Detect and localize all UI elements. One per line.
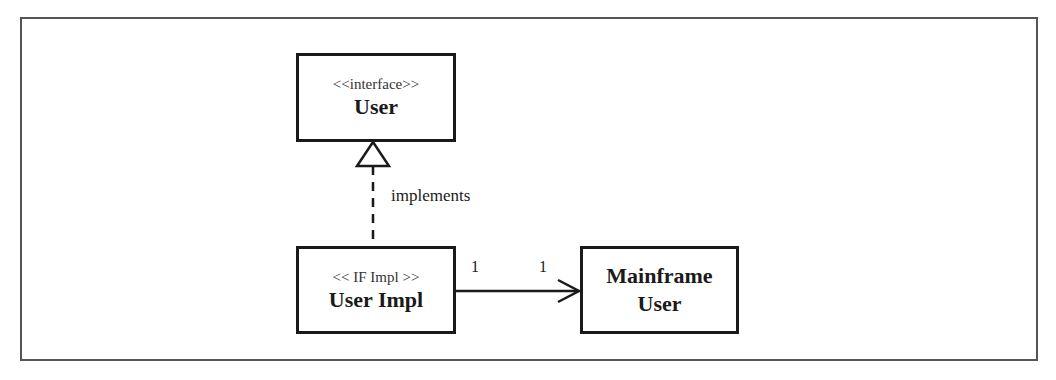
source-multiplicity-label: 1 xyxy=(471,258,479,276)
implements-label: implements xyxy=(391,186,470,206)
stereotype-label: << IF Impl >> xyxy=(333,268,420,286)
class-name-line-1: Mainframe xyxy=(606,262,712,290)
stereotype-label: <<interface>> xyxy=(333,75,419,93)
class-box-user-impl[interactable]: << IF Impl >> User Impl xyxy=(296,246,456,334)
class-box-user[interactable]: <<interface>> User xyxy=(296,53,456,142)
class-name: User xyxy=(354,93,398,120)
class-name: User Impl xyxy=(329,286,423,313)
diagram-frame xyxy=(20,17,1038,361)
class-name-line-2: User xyxy=(638,290,682,318)
class-box-mainframe-user[interactable]: Mainframe User xyxy=(580,246,739,334)
target-multiplicity-label: 1 xyxy=(539,258,547,276)
